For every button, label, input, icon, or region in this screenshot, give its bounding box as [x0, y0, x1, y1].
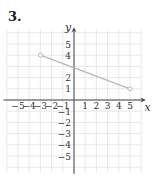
- y-tick-label: 4: [65, 51, 71, 61]
- y-tick-label: −1: [58, 107, 71, 117]
- y-axis-label: y: [64, 21, 72, 34]
- y-tick-label: −4: [58, 140, 72, 150]
- segment-endpoint: [38, 53, 42, 57]
- y-tick-label: −2: [58, 118, 71, 128]
- y-tick-label: −5: [58, 152, 72, 162]
- x-tick-label: 5: [127, 101, 133, 111]
- y-tick-label: 5: [65, 40, 71, 50]
- y-tick-label: −3: [58, 129, 72, 139]
- x-tick-label: 4: [116, 101, 122, 111]
- y-tick-label: 2: [65, 73, 71, 83]
- x-tick-label: 3: [105, 101, 111, 111]
- coordinate-plane: −5−4−3−2−1123455421−1−2−3−4−5 x y: [0, 0, 160, 188]
- x-tick-label: 2: [94, 101, 100, 111]
- segment-endpoint: [128, 87, 132, 91]
- x-axis-label: x: [145, 101, 152, 114]
- x-tick-label: 1: [82, 101, 88, 111]
- y-tick-label: 1: [65, 84, 71, 94]
